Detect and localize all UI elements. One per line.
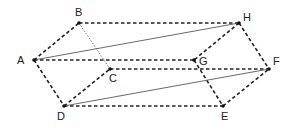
edge-df	[64, 69, 269, 106]
label-b: B	[75, 6, 82, 18]
prism-diagram: B A C D E F G H	[0, 0, 293, 130]
edge-hf	[239, 23, 269, 69]
edge-bc	[79, 23, 110, 69]
label-a: A	[17, 54, 25, 66]
edge-ef	[223, 69, 269, 106]
edge-dc	[64, 69, 110, 106]
label-f: F	[273, 55, 280, 67]
vertex-a	[32, 58, 36, 62]
label-c: C	[109, 72, 117, 84]
edge-ad	[34, 60, 64, 106]
vertex-h	[237, 21, 241, 25]
vertex-c	[108, 67, 112, 71]
edge-ah	[34, 23, 239, 60]
vertex-g	[192, 58, 196, 62]
vertex-f	[267, 67, 271, 71]
vertex-d	[62, 104, 66, 108]
vertex-e	[221, 104, 225, 108]
vertex-b	[77, 21, 81, 25]
label-d: D	[57, 110, 65, 122]
edge-ab	[34, 23, 79, 60]
label-e: E	[221, 110, 228, 122]
label-g: G	[199, 55, 208, 67]
label-h: H	[243, 11, 251, 23]
